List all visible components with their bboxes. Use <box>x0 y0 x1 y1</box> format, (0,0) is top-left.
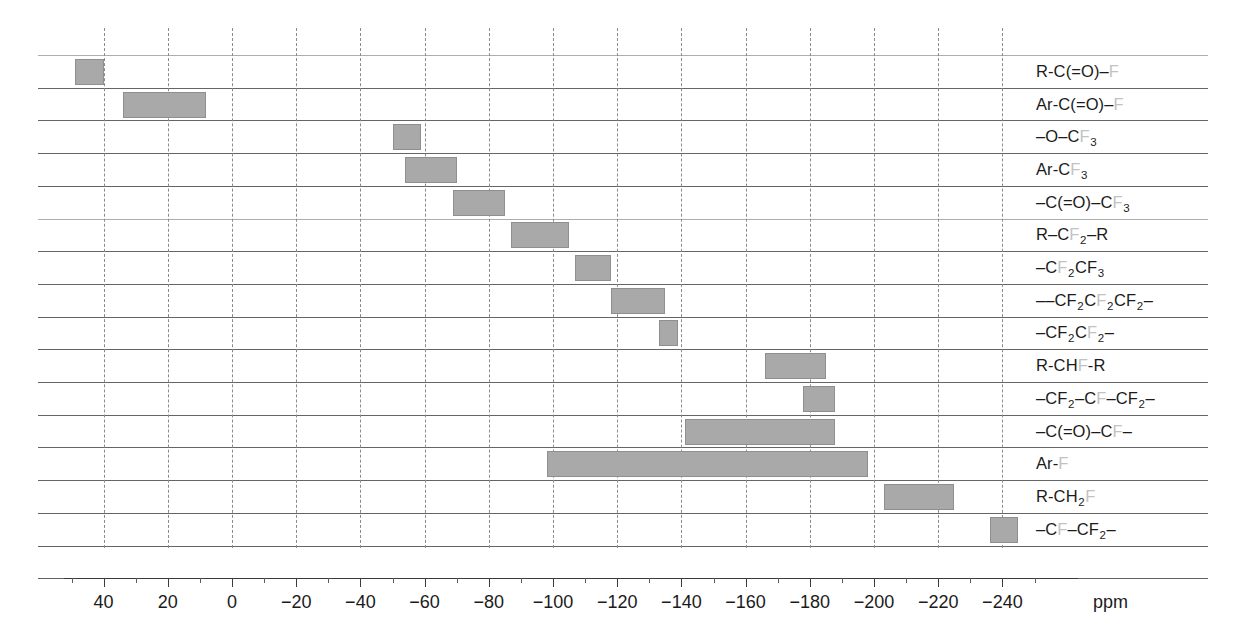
fluorine-glyph: F <box>1057 520 1067 538</box>
axis-tick--140 <box>681 578 682 587</box>
axis-tick-label--40: −40 <box>345 592 376 613</box>
formula-fragment: 3 <box>1123 202 1131 214</box>
axis-tick-label--120: −120 <box>597 592 638 613</box>
formula-fragment: -R <box>1088 356 1106 374</box>
formula-fragment: –CF <box>1036 389 1067 407</box>
fluorine-glyph: F <box>1070 160 1080 178</box>
fluorine-glyph: F <box>1096 291 1106 309</box>
axis-minor-tick <box>714 578 715 583</box>
axis-tick-label--80: −80 <box>474 592 505 613</box>
formula-fragment: 2 <box>1077 300 1085 312</box>
formula-fragment: 2 <box>1078 496 1086 508</box>
axis-tick-label-40: 40 <box>94 592 114 613</box>
axis-minor-tick <box>778 578 779 583</box>
fluorine-glyph: F <box>1112 422 1122 440</box>
x-axis-line <box>64 578 1078 579</box>
row-separator-line <box>38 447 1208 448</box>
row-label-primary-ch2f: R-CH2F <box>1036 488 1095 505</box>
shift-range-bar <box>511 222 569 248</box>
row-separator-line <box>38 219 1208 220</box>
row-separator-line <box>38 153 1208 154</box>
row-label-cf-cf2: –CF–CF2– <box>1036 521 1116 538</box>
row-label-aryl-fluoride: Ar-F <box>1036 455 1068 472</box>
formula-fragment: 2 <box>1106 300 1114 312</box>
formula-fragment: –C(=O)–C <box>1036 422 1112 440</box>
formula-fragment: C <box>1075 323 1087 341</box>
axis-tick--60 <box>425 578 426 587</box>
formula-fragment: 3 <box>1081 169 1089 181</box>
axis-tick-label--60: −60 <box>409 592 440 613</box>
shift-range-bar <box>453 190 504 216</box>
row-label-alkyl-difluoromethylene: R–CF2–R <box>1036 226 1108 243</box>
row-label-carbonyl-cf: –C(=O)–CF– <box>1036 423 1132 440</box>
formula-fragment: R-CH <box>1036 356 1078 374</box>
shift-range-bar <box>803 386 835 412</box>
formula-fragment: CF <box>1075 258 1097 276</box>
axis-tick-label--140: −140 <box>661 592 702 613</box>
formula-fragment: –CF <box>1036 323 1067 341</box>
axis-minor-tick <box>1035 578 1036 583</box>
axis-minor-tick <box>585 578 586 583</box>
axis-minor-tick <box>970 578 971 583</box>
formula-fragment: –CF <box>1106 389 1137 407</box>
axis-minor-tick <box>521 578 522 583</box>
row-separator-line <box>38 88 1208 89</box>
axis-minor-tick <box>200 578 201 583</box>
axis-tick--20 <box>296 578 297 587</box>
formula-fragment: CF <box>1114 291 1136 309</box>
formula-fragment: – <box>1105 323 1114 341</box>
axis-tick--160 <box>746 578 747 587</box>
formula-fragment: R-C(=O)– <box>1036 62 1109 80</box>
row-label-trifluoromethoxy: –O–CF3 <box>1036 128 1097 145</box>
row-label-aryl-trifluoromethyl: Ar-CF3 <box>1036 161 1088 178</box>
fluorine-glyph: F <box>1109 62 1119 80</box>
shift-range-bar <box>659 320 678 346</box>
axis-tick-label--20: −20 <box>281 592 312 613</box>
gridline--200ppm <box>874 28 875 548</box>
gridline--60ppm <box>425 28 426 548</box>
axis-tick--40 <box>360 578 361 587</box>
fluorine-glyph: F <box>1069 225 1079 243</box>
formula-fragment: 2 <box>1067 332 1075 344</box>
formula-fragment: 2 <box>1097 332 1105 344</box>
formula-fragment: 2 <box>1099 529 1107 541</box>
axis-minor-tick <box>328 578 329 583</box>
axis-tick--120 <box>617 578 618 587</box>
row-separator-line <box>38 513 1208 514</box>
shift-range-bar <box>575 255 610 281</box>
formula-fragment: 2 <box>1138 398 1146 410</box>
row-separator-line <box>38 186 1208 187</box>
axis-tick-20 <box>168 578 169 587</box>
axis-tick--200 <box>874 578 875 587</box>
row-label-tertiary-cf: –CF2–CF–CF2– <box>1036 390 1155 407</box>
formula-fragment: 2 <box>1080 234 1088 246</box>
row-label-acyl-fluoride: R-C(=O)–F <box>1036 63 1119 80</box>
row-label-secondary-chf: R-CHF-R <box>1036 357 1105 374</box>
shift-range-bar <box>765 353 826 379</box>
row-label-aroyl-fluoride: Ar-C(=O)–F <box>1036 96 1124 113</box>
formula-fragment: C <box>1084 291 1096 309</box>
fluorine-glyph: F <box>1078 356 1088 374</box>
x-axis-unit-label: ppm <box>1093 592 1128 613</box>
fluorine-glyph: F <box>1057 258 1067 276</box>
fluorine-glyph: F <box>1085 487 1095 505</box>
axis-tick--220 <box>938 578 939 587</box>
row-separator-line <box>38 349 1208 350</box>
formula-fragment: –C <box>1075 389 1096 407</box>
row-separator-line <box>38 480 1208 481</box>
gridline--220ppm <box>938 28 939 548</box>
shift-range-bar <box>547 451 868 477</box>
formula-fragment: Ar-C <box>1036 160 1070 178</box>
formula-fragment: –C <box>1036 520 1057 538</box>
formula-fragment: – <box>1123 422 1132 440</box>
formula-fragment: 3 <box>1097 267 1105 279</box>
formula-fragment: –O–C <box>1036 127 1080 145</box>
axis-minor-tick <box>264 578 265 583</box>
formula-fragment: Ar- <box>1036 454 1058 472</box>
axis-tick-0 <box>232 578 233 587</box>
row-separator-line <box>38 284 1208 285</box>
axis-minor-tick <box>842 578 843 583</box>
axis-tick--100 <box>553 578 554 587</box>
axis-tick-label--240: −240 <box>982 592 1023 613</box>
axis-tick-40 <box>104 578 105 587</box>
